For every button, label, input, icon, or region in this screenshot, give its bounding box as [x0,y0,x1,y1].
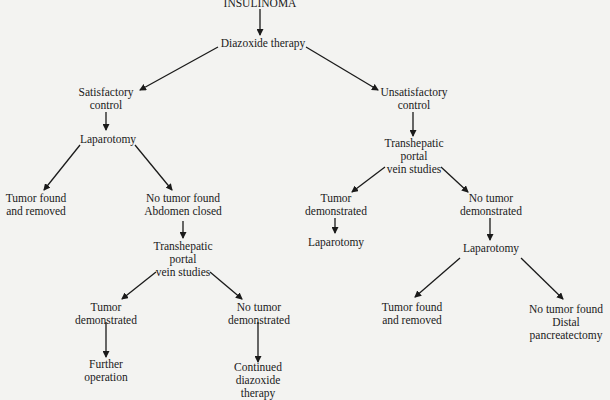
node-label: Laparotomy [308,236,364,249]
node-label: demonstrated [75,314,137,327]
node-label: Tumor [75,301,137,314]
node-tumor-demonstrated-right: Tumor demonstrated [305,192,367,218]
arrow-thps-no-tumor-demo [210,272,242,299]
node-label: control [380,99,447,112]
node-label: Unsatisfactory [380,86,447,99]
node-label: therapy [234,387,282,400]
node-laparotomy-right-b: Laparotomy [463,242,519,255]
node-label: No tumor [228,301,290,314]
node-label: Laparotomy [80,133,136,146]
arrow-lap-no-tumor [135,145,172,190]
node-label: INSULINOMA [224,0,297,10]
node-transhepatic-right: Transhepatic portal vein studies [385,137,444,176]
node-tumor-found-right: Tumor found and removed [382,301,443,327]
arrow-thps-right-no-tumor [441,167,468,192]
arrow-diazoxide-unsatisfactory [306,47,378,90]
node-label: No tumor [460,192,522,205]
node-label: demonstrated [228,314,290,327]
node-label: vein studies [154,266,213,279]
arrow-lap-tumor-found [44,145,80,190]
node-no-tumor-demonstrated-left: No tumor demonstrated [228,301,290,327]
arrow-lap-right-tumor-found [415,258,460,297]
node-label: Satisfactory [79,86,134,99]
arrow-thps-right-tumor [352,167,385,192]
node-transhepatic-left: Transhepatic portal vein studies [154,240,213,279]
arrow-diazoxide-satisfactory [140,47,218,90]
node-label: Laparotomy [463,242,519,255]
node-laparotomy-right-a: Laparotomy [308,236,364,249]
node-label: control [79,99,134,112]
node-label: Tumor found [382,301,443,314]
node-label: Transhepatic [385,137,444,150]
node-continued-diazoxide: Continued diazoxide therapy [234,361,282,400]
node-no-tumor-abdomen-closed: No tumor found Abdomen closed [144,192,222,218]
node-laparotomy-left: Laparotomy [80,133,136,146]
node-label: diazoxide [234,374,282,387]
node-label: Distal [529,316,603,329]
node-label: portal [385,150,444,163]
node-tumor-found-left: Tumor found and removed [6,192,67,218]
node-insulinoma: INSULINOMA [224,0,297,10]
node-label: operation [84,371,127,384]
node-no-tumor-distal-pancreatectomy: No tumor found Distal pancreatectomy [529,303,603,342]
node-unsatisfactory-control: Unsatisfactory control [380,86,447,112]
node-no-tumor-demonstrated-right: No tumor demonstrated [460,192,522,218]
node-further-operation: Further operation [84,358,127,384]
node-label: Tumor found [6,192,67,205]
node-label: Abdomen closed [144,205,222,218]
node-satisfactory-control: Satisfactory control [79,86,134,112]
node-label: and removed [6,205,67,218]
node-label: demonstrated [460,205,522,218]
node-label: No tumor found [529,303,603,316]
node-label: and removed [382,314,443,327]
node-label: pancreatectomy [529,329,603,342]
node-label: Diazoxide therapy [221,37,306,50]
node-label: Tumor [305,192,367,205]
node-label: Further [84,358,127,371]
node-label: portal [154,253,213,266]
node-diazoxide-therapy: Diazoxide therapy [221,37,306,50]
node-label: Transhepatic [154,240,213,253]
node-tumor-demonstrated-left: Tumor demonstrated [75,301,137,327]
node-label: vein studies [385,163,444,176]
arrow-lap-right-no-tumor [521,258,563,299]
node-label: Continued [234,361,282,374]
node-label: demonstrated [305,205,367,218]
arrow-thps-tumor-demo [122,272,156,299]
node-label: No tumor found [144,192,222,205]
